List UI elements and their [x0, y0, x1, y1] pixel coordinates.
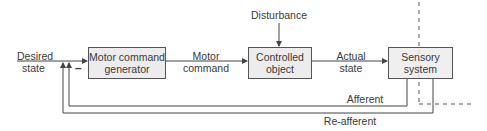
box-label-line2: object [256, 63, 304, 75]
actual-state-label: Actual state [336, 50, 365, 74]
actual-state-line2: state [336, 62, 365, 74]
minus-sign: – [75, 62, 82, 74]
box-label-line2: system [401, 63, 440, 75]
motor-command-line2: command [183, 62, 229, 74]
motor-command-generator-box: Motor command generator [88, 47, 166, 79]
desired-state-line2: state [17, 62, 53, 74]
motor-command-label: Motor command [183, 50, 229, 74]
box-label-line1: Controlled [256, 51, 304, 63]
afferent-label: Afferent [347, 93, 384, 105]
desired-state-line1: Desired [17, 50, 53, 62]
desired-state-label: Desired state [17, 50, 53, 74]
box-label-line1: Motor command [89, 51, 165, 63]
box-label-line2: generator [89, 63, 165, 75]
box-label-line1: Sensory [401, 51, 440, 63]
sensory-system-box: Sensory system [388, 47, 453, 79]
actual-state-line1: Actual [336, 50, 365, 62]
reafferent-label: Re-afferent [324, 115, 376, 127]
disturbance-label: Disturbance [251, 9, 307, 21]
controlled-object-box: Controlled object [248, 47, 312, 79]
motor-command-line1: Motor [183, 50, 229, 62]
